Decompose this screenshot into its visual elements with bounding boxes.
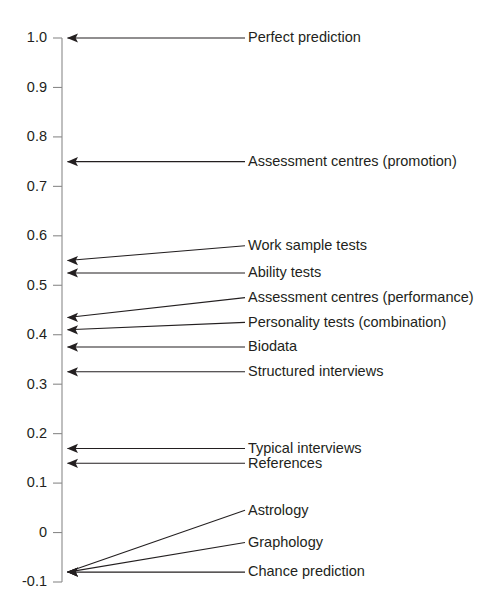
y-axis-tick-label: 0 bbox=[39, 524, 47, 540]
series-label: References bbox=[248, 455, 322, 471]
chart-container: 1.00.90.80.70.60.50.40.30.20.10-0.1 Perf… bbox=[0, 0, 499, 611]
y-axis-tick-label: -0.1 bbox=[22, 573, 47, 589]
series-label: Chance prediction bbox=[248, 563, 365, 579]
series-label: Structured interviews bbox=[248, 363, 383, 379]
y-axis-tick-label: 0.6 bbox=[27, 227, 47, 243]
y-axis-tick-label: 0.9 bbox=[27, 79, 47, 95]
series-label: Assessment centres (promotion) bbox=[248, 153, 457, 169]
y-axis-tick-label: 1.0 bbox=[27, 29, 47, 45]
y-axis-tick-label: 0.2 bbox=[27, 425, 47, 441]
series-label: Personality tests (combination) bbox=[248, 314, 446, 330]
series-label: Ability tests bbox=[248, 264, 321, 280]
y-axis-tick-label: 0.7 bbox=[27, 178, 47, 194]
series-label: Graphology bbox=[248, 534, 324, 550]
chart-background bbox=[0, 0, 499, 611]
predictor-validity-chart: 1.00.90.80.70.60.50.40.30.20.10-0.1 Perf… bbox=[0, 0, 499, 611]
y-axis-tick-label: 0.8 bbox=[27, 128, 47, 144]
series-label: Astrology bbox=[248, 502, 309, 518]
series-label: Biodata bbox=[248, 338, 298, 354]
series-label: Perfect prediction bbox=[248, 29, 361, 45]
y-axis-tick-label: 0.4 bbox=[27, 326, 47, 342]
series-label: Assessment centres (performance) bbox=[248, 289, 474, 305]
y-axis-tick-label: 0.5 bbox=[27, 277, 47, 293]
series-label: Typical interviews bbox=[248, 440, 362, 456]
series-label: Work sample tests bbox=[248, 237, 367, 253]
y-axis-tick-label: 0.1 bbox=[27, 474, 47, 490]
y-axis-tick-label: 0.3 bbox=[27, 376, 47, 392]
